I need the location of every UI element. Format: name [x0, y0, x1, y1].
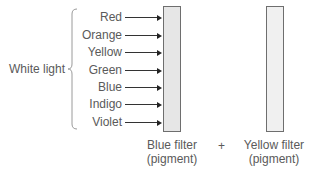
color-label-red: Red — [62, 10, 122, 24]
color-label-green: Green — [62, 63, 122, 77]
arrow-icon — [125, 70, 160, 71]
arrow-icon — [125, 122, 160, 123]
blue-filter-sub: (pigment) — [132, 152, 212, 166]
yellow-filter-rect — [266, 6, 284, 132]
blue-filter-rect — [163, 6, 181, 132]
color-label-violet: Violet — [62, 115, 122, 129]
yellow-filter-sub: (pigment) — [234, 152, 309, 166]
arrow-icon — [125, 17, 160, 18]
color-label-yellow: Yellow — [62, 45, 122, 59]
arrow-icon — [125, 35, 160, 36]
arrow-icon — [125, 104, 160, 105]
blue-filter-name: Blue filter — [132, 138, 212, 152]
arrow-icon — [125, 87, 160, 88]
white-light-label: White light — [9, 62, 65, 76]
arrow-icon — [125, 52, 160, 53]
yellow-filter-caption: Yellow filter (pigment) — [234, 138, 309, 166]
color-label-blue: Blue — [62, 80, 122, 94]
plus-operator: + — [218, 139, 225, 153]
color-label-indigo: Indigo — [62, 97, 122, 111]
color-label-orange: Orange — [62, 28, 122, 42]
yellow-filter-name: Yellow filter — [234, 138, 309, 152]
blue-filter-caption: Blue filter (pigment) — [132, 138, 212, 166]
